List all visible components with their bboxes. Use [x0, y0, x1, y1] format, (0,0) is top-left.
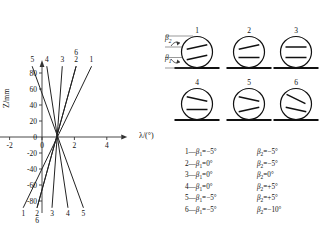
- legend-row: 6—β1=−5°β2=−10°: [175, 206, 323, 218]
- curve-bottom-label-5: 5: [75, 210, 91, 218]
- legend: 1—β1=−5°β2=−5°2—β1=0°β2=−5°3—β1=0°β2=0°4…: [175, 148, 323, 217]
- legend-entry-left: 4—β1=0°: [175, 183, 257, 192]
- beta1-label: β1: [165, 53, 171, 64]
- inset-circle-1: [182, 37, 213, 68]
- inset-upper-chord-4: [187, 97, 208, 101]
- x-axis-title: λ/(°): [139, 131, 154, 140]
- y-tick-label: -40: [14, 165, 37, 174]
- curve-top-label-5: 5: [24, 56, 40, 64]
- y-tick-label: 60: [14, 85, 37, 94]
- beta2-label: β2: [165, 33, 171, 44]
- inset-upper-chord-5: [239, 97, 260, 101]
- x-tick-label: 2: [63, 141, 85, 150]
- legend-entry-left: 1—β1=−5°: [175, 148, 257, 157]
- inset-lower-chord-1: [187, 55, 208, 59]
- curve-bottom-label-4: 4: [60, 210, 76, 218]
- inset-case-number-1: 1: [189, 26, 205, 35]
- figure-root: Z/mm λ/(°) 806040200-20-40-60-80-2024 54…: [0, 0, 323, 249]
- inset-case-number-6: 6: [288, 78, 304, 87]
- y-tick-label: 40: [14, 101, 37, 110]
- legend-row: 3—β1=0°β2=0°: [175, 171, 323, 183]
- x-tick-label: 4: [96, 141, 118, 150]
- inset-lower-chord-6: [286, 107, 307, 111]
- curve-bottom-label-3: 3: [44, 210, 60, 218]
- inset-circle-3: [281, 37, 312, 68]
- legend-row: 5—β1=−5°β2=+5°: [175, 194, 323, 206]
- y-tick-label: -20: [14, 149, 37, 158]
- inset-case-number-5: 5: [241, 78, 257, 87]
- legend-row: 4—β1=0°β2=+5°: [175, 183, 323, 195]
- legend-entry-right: β2=−5°: [257, 160, 323, 169]
- legend-entry-left: 5—β1=−5°: [175, 194, 257, 203]
- y-axis-title: Z/mm: [2, 88, 11, 108]
- inset-case-number-4: 4: [189, 78, 205, 87]
- legend-entry-right: β2=−5°: [257, 148, 323, 157]
- inset-circle-4: [182, 89, 213, 120]
- inset-case-number-2: 2: [241, 26, 257, 35]
- inset-circle-6: [281, 89, 312, 120]
- legend-entry-left: 2—β1=0°: [175, 160, 257, 169]
- y-tick-label: 20: [14, 117, 37, 126]
- legend-row: 1—β1=−5°β2=−5°: [175, 148, 323, 160]
- inset-upper-chord-2: [239, 45, 260, 49]
- y-tick-label: 80: [14, 69, 37, 78]
- y-tick-label: -80: [14, 197, 37, 206]
- x-axis-arrow: [121, 135, 127, 140]
- inset-upper-chord-6: [287, 94, 306, 103]
- legend-entry-right: β2=+5°: [257, 194, 323, 203]
- legend-entry-right: β2=−10°: [257, 206, 323, 215]
- inset-case-number-3: 3: [288, 26, 304, 35]
- inset-circle-5: [234, 89, 265, 120]
- inset-circle-2: [234, 37, 265, 68]
- inset-lower-chord-5: [239, 107, 260, 111]
- inset-upper-chord-1: [187, 45, 208, 49]
- y-tick-label: -60: [14, 181, 37, 190]
- legend-entry-left: 6—β1=−5°: [175, 206, 257, 215]
- x-tick-label: 0: [31, 141, 53, 150]
- curve-top-label-1: 1: [83, 56, 99, 64]
- legend-entry-right: β2=+5°: [257, 183, 323, 192]
- legend-row: 2—β1=0°β2=−5°: [175, 160, 323, 172]
- curve-top-label-2: 2: [68, 56, 84, 64]
- curve-top-label-4: 4: [39, 56, 55, 64]
- x-tick-label: -2: [0, 141, 21, 150]
- legend-entry-left: 3—β1=0°: [175, 171, 257, 180]
- curve-bottom-label-6: 6: [29, 217, 45, 225]
- legend-entry-right: β2=0°: [257, 171, 323, 180]
